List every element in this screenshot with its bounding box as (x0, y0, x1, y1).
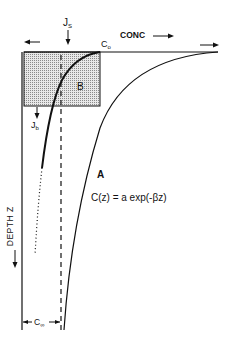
jb-arrow-icon (35, 107, 40, 119)
curve-a-label: A (97, 170, 104, 180)
js-arrow-icon (66, 30, 71, 45)
c-infinity-label-sub: ∞ (40, 322, 44, 328)
c-infinity-label: C∞ (34, 318, 44, 328)
c0-label: Co (101, 40, 111, 50)
equation-label: C(z) = a exp(-βz) (91, 193, 166, 203)
region-b-label: B (77, 82, 84, 92)
curve-b-dotted (35, 168, 42, 255)
conc-label: CONC (120, 31, 145, 40)
concentration-depth-diagram (0, 0, 228, 345)
jb-label: Jb (31, 121, 39, 131)
jb-label-sub: b (36, 125, 39, 131)
left-arrow-icon (24, 40, 40, 45)
right-arrow-icon (200, 43, 219, 48)
depth-axis-label: DEPTH Z (6, 196, 15, 256)
conc-arrow-icon (153, 34, 174, 39)
c0-label-sub: o (108, 44, 111, 50)
js-label: JS (63, 18, 72, 29)
js-label-sub: S (68, 23, 72, 29)
